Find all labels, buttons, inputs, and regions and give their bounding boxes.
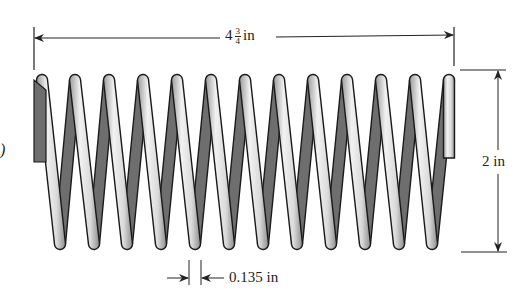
front-strand <box>206 75 235 250</box>
length-unit: in <box>243 27 255 43</box>
front-strand <box>274 75 303 250</box>
front-strand <box>70 75 100 250</box>
thickness-label: 0.135 in <box>229 270 278 285</box>
spring-diagram <box>0 0 530 292</box>
length-fraction: 34 <box>235 27 242 46</box>
diameter-label: 2 in <box>482 154 505 169</box>
front-strand <box>376 75 405 250</box>
thickness-dimension <box>167 260 224 285</box>
left-edge-fragment: ) <box>0 142 5 158</box>
front-strand <box>138 75 167 250</box>
front-strand <box>342 75 371 250</box>
right-end-bar <box>444 75 455 159</box>
front-strand <box>240 75 269 250</box>
front-strand <box>103 75 132 250</box>
front-strand <box>308 75 337 250</box>
length-arrow-right <box>276 35 453 37</box>
length-whole: 4 <box>225 27 233 43</box>
front-strand <box>172 75 201 250</box>
left-end-stub <box>34 80 46 162</box>
length-label: 434in <box>225 27 255 46</box>
front-strand <box>410 75 438 250</box>
